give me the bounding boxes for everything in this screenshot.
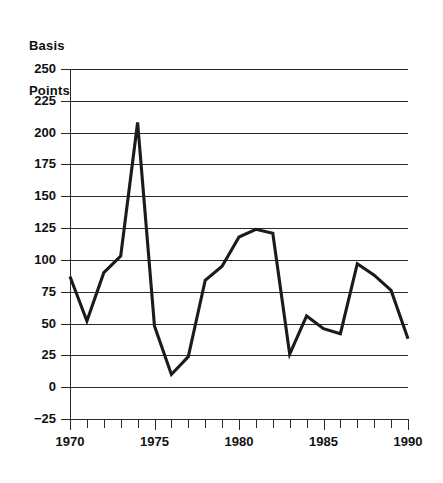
gridline-175	[70, 164, 408, 165]
x-tick-1984	[307, 419, 308, 428]
y-tick-50	[61, 324, 70, 325]
x-tick-1975	[155, 419, 156, 430]
y-tick-225	[61, 101, 70, 102]
y-tick-125	[61, 228, 70, 229]
x-tick-1981	[256, 419, 257, 428]
x-tick-label-1970: 1970	[56, 434, 85, 449]
y-axis-spine	[70, 69, 71, 419]
y-axis-title-line-1: Basis	[29, 38, 70, 53]
x-tick-1974	[138, 419, 139, 428]
gridline-200	[70, 133, 408, 134]
gridline-125	[70, 228, 408, 229]
y-tick-150	[61, 196, 70, 197]
y-tick-label--25: −25	[6, 412, 56, 425]
gridline-50	[70, 324, 408, 325]
y-tick-label-100: 100	[6, 253, 56, 266]
y-tick-200	[61, 133, 70, 134]
y-tick-label-125: 125	[6, 221, 56, 234]
x-tick-1978	[205, 419, 206, 428]
x-tick-1977	[188, 419, 189, 428]
x-tick-1985	[324, 419, 325, 430]
x-tick-1976	[171, 419, 172, 428]
gridline-0	[70, 387, 408, 388]
y-tick-100	[61, 260, 70, 261]
x-tick-1990	[408, 419, 409, 430]
y-tick-label-0: 0	[6, 380, 56, 393]
gridline-250	[70, 69, 408, 70]
x-tick-1982	[273, 419, 274, 428]
x-tick-1973	[121, 419, 122, 428]
y-tick-75	[61, 292, 70, 293]
y-tick-label-175: 175	[6, 157, 56, 170]
y-tick-label-75: 75	[6, 285, 56, 298]
x-tick-1970	[70, 419, 71, 430]
gridline-100	[70, 260, 408, 261]
plot-area	[70, 69, 408, 419]
y-tick-0	[61, 387, 70, 388]
y-tick-175	[61, 164, 70, 165]
y-tick-label-250: 250	[6, 62, 56, 75]
x-tick-label-1980: 1980	[225, 434, 254, 449]
x-tick-1986	[340, 419, 341, 428]
x-tick-label-1975: 1975	[140, 434, 169, 449]
gridline-225	[70, 101, 408, 102]
y-tick-label-50: 50	[6, 317, 56, 330]
x-tick-1987	[357, 419, 358, 428]
y-tick-250	[61, 69, 70, 70]
x-tick-1988	[374, 419, 375, 428]
x-tick-1983	[290, 419, 291, 428]
gridline-150	[70, 196, 408, 197]
y-tick-25	[61, 355, 70, 356]
y-tick-label-150: 150	[6, 189, 56, 202]
y-tick-label-25: 25	[6, 348, 56, 361]
x-tick-1989	[391, 419, 392, 428]
x-tick-1972	[104, 419, 105, 428]
y-tick--25	[61, 419, 70, 420]
gridline-75	[70, 292, 408, 293]
x-tick-label-1985: 1985	[309, 434, 338, 449]
x-tick-1979	[222, 419, 223, 428]
chart-figure: Basis Points 250225200175150125100755025…	[0, 0, 443, 483]
x-tick-label-1990: 1990	[394, 434, 423, 449]
x-tick-1980	[239, 419, 240, 430]
x-tick-1971	[87, 419, 88, 428]
y-tick-label-225: 225	[6, 94, 56, 107]
gridline-25	[70, 355, 408, 356]
y-tick-label-200: 200	[6, 126, 56, 139]
